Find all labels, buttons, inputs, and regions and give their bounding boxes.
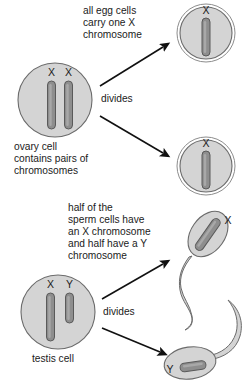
egg-cell-bottom: X (177, 137, 235, 195)
egg-cell-bottom-chromosome-label: X (202, 137, 209, 149)
egg-cell-top-chromosome-label: X (202, 4, 209, 16)
egg-note-text: all egg cells carry one X chromosome (83, 5, 142, 40)
egg-cell-top-chromosome-highlight (204, 21, 206, 53)
sperm-cell-y-chromosome-label: Y (166, 363, 173, 375)
sperm-cell-y: Y (162, 300, 241, 382)
sperm-cell-y-tail (207, 300, 241, 360)
sperm-note-line-3: an X chromosome (68, 226, 151, 237)
sperm-note-line-5: chromosome (68, 250, 127, 261)
sperm-note-line-4: and half have a Y (68, 238, 147, 249)
testis-chromosome-y-highlight (67, 296, 69, 320)
egg-cell-top-chromosome: X (202, 4, 210, 56)
testis-chromosome-x-label: X (47, 278, 54, 290)
egg-cell-top: X (177, 4, 235, 62)
ovary-chromosome-1-highlight (49, 84, 51, 126)
egg-note-line-1: all egg cells (83, 5, 136, 16)
testis-chromosome-x: X (47, 278, 55, 341)
ovary-chromosome-2-label: X (65, 66, 72, 78)
testis-cell-caption: testis cell (32, 353, 74, 364)
inheritance-diagram: all egg cells carry one X chromosome X X… (0, 0, 251, 384)
testis-divides-label: divides (103, 306, 135, 317)
arrow-testis-to-sperm-x (102, 264, 163, 299)
ovary-chromosome-2-highlight (66, 84, 68, 126)
sperm-cell-x-chromosome-label: X (224, 214, 231, 226)
testis-cell-membrane (21, 275, 95, 349)
arrow-ovary-to-egg-top (100, 47, 163, 86)
arrow-testis-to-sperm-y (102, 328, 160, 352)
sperm-note-text: half of the sperm cells have an X chromo… (68, 202, 151, 261)
ovary-divides-label: divides (101, 93, 133, 104)
egg-cell-bottom-chromosome-highlight (204, 154, 206, 186)
egg-cell-bottom-chromosome: X (202, 137, 210, 189)
egg-note-line-3: chromosome (83, 29, 142, 40)
arrow-ovary-to-egg-bottom (100, 116, 163, 153)
testis-chromosome-y-label: Y (66, 278, 73, 290)
sperm-note-line-2: sperm cells have (68, 214, 145, 225)
diagram-canvas: all egg cells carry one X chromosome X X… (0, 0, 251, 384)
egg-note-line-2: carry one X (83, 17, 135, 28)
ovary-chromosome-1-label: X (48, 66, 55, 78)
ovary-chromosome-2: X (65, 66, 73, 129)
ovary-cell-caption: ovary cell contains pairs of chromosomes (14, 141, 88, 176)
sperm-cell-x-tail (179, 256, 192, 330)
ovary-chromosome-1: X (48, 66, 56, 129)
testis-cell: X Y (21, 275, 95, 349)
testis-chromosome-x-highlight (48, 296, 50, 338)
ovary-caption-line-2: contains pairs of (14, 153, 88, 164)
sperm-cell-x: X (179, 204, 236, 330)
testis-chromosome-y: Y (66, 278, 74, 323)
ovary-cell: X X (18, 63, 92, 137)
ovary-caption-line-3: chromosomes (14, 165, 78, 176)
ovary-caption-line-1: ovary cell (14, 141, 57, 152)
sperm-note-line-1: half of the (68, 202, 113, 213)
